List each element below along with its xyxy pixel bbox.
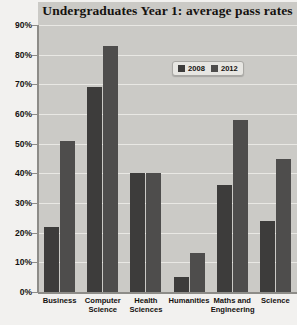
legend-label-2012: 2012 xyxy=(221,64,238,73)
bar-2008-humanities xyxy=(174,277,189,292)
y-axis-tick-label: 10% xyxy=(0,257,32,267)
bar-2012-health-sciences xyxy=(146,173,161,292)
x-axis-category-label: Business xyxy=(38,296,81,305)
y-axis-tick-label: 60% xyxy=(0,109,32,119)
y-axis-tick-label: 80% xyxy=(0,50,32,60)
y-axis-tick-mark xyxy=(32,292,37,293)
y-axis-tick-mark xyxy=(32,233,37,234)
bar-chart: 0%10%20%30%40%50%60%70%80%90% Undergradu… xyxy=(0,0,297,325)
legend-item-2012: 2012 xyxy=(211,64,238,73)
y-axis-tick-mark xyxy=(32,55,37,56)
y-axis-tick-mark xyxy=(32,114,37,115)
bar-2008-maths-and-engineering xyxy=(217,185,232,292)
legend-item-2008: 2008 xyxy=(178,64,205,73)
y-axis-tick-label: 50% xyxy=(0,139,32,149)
y-axis-tick-mark xyxy=(32,144,37,145)
bar-2012-maths-and-engineering xyxy=(233,120,248,292)
legend-label-2008: 2008 xyxy=(188,64,205,73)
bar-2008-health-sciences xyxy=(130,173,145,292)
x-axis-category-label: Health Sciences xyxy=(124,296,167,314)
y-axis-tick-mark xyxy=(32,173,37,174)
bar-2012-science xyxy=(276,159,291,293)
chart-title: Undergraduates Year 1: average pass rate… xyxy=(38,3,297,19)
legend-swatch-icon-2012 xyxy=(211,65,218,72)
y-axis-tick-mark xyxy=(32,25,37,26)
y-axis-tick-mark xyxy=(32,262,37,263)
y-axis-tick-mark xyxy=(32,84,37,85)
bar-2012-computer-science xyxy=(103,46,118,292)
x-axis-category-label: Humanities xyxy=(168,296,211,305)
bar-2008-computer-science xyxy=(87,87,102,292)
x-axis-category-label: Computer Science xyxy=(81,296,124,314)
chart-legend: 2008 2012 xyxy=(172,61,244,76)
bar-2012-business xyxy=(60,141,75,292)
x-axis-category-label: Maths and Engineering xyxy=(211,296,254,314)
y-axis-tick-mark xyxy=(32,203,37,204)
y-axis-tick-label: 30% xyxy=(0,198,32,208)
x-axis-category-label: Science xyxy=(254,296,297,305)
y-axis-tick-label: 90% xyxy=(0,20,32,30)
y-axis-tick-label: 20% xyxy=(0,228,32,238)
y-axis-tick-label: 40% xyxy=(0,168,32,178)
bar-2012-humanities xyxy=(190,253,205,292)
bar-2008-business xyxy=(44,227,59,292)
y-axis-tick-label: 70% xyxy=(0,79,32,89)
y-axis-tick-label: 0% xyxy=(0,287,32,297)
bar-2008-science xyxy=(260,221,275,292)
legend-swatch-icon-2008 xyxy=(178,65,185,72)
